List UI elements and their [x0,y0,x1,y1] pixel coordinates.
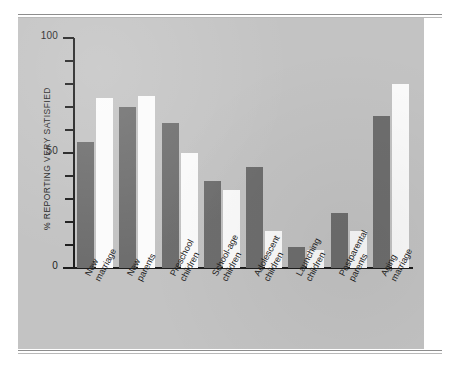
y-tick-minor [65,221,74,223]
y-tick-major: 0 [63,267,74,269]
plot-area: 050100 % REPORTING VERY SATISFIED Newmar… [18,18,424,349]
x-axis-category-labels: NewmarriageNewparentsPreschoolchildrenSc… [75,273,413,349]
y-tick-minor [65,129,74,131]
y-tick-minor [65,60,74,62]
y-tick-major: 100 [63,37,74,39]
y-tick-minor [65,198,74,200]
bottom-rule-secondary [18,353,442,354]
figure-page: 050100 % REPORTING VERY SATISFIED Newmar… [0,0,455,370]
y-tick-minor [65,83,74,85]
y-tick-minor [65,244,74,246]
bar-series-1 [77,142,94,269]
y-tick-minor [65,106,74,108]
y-tick-major: 50 [63,152,74,154]
y-axis-title: % REPORTING VERY SATISFIED [42,80,52,230]
y-tick-label: 100 [41,30,58,41]
bottom-rule [18,350,442,351]
y-tick-minor [65,175,74,177]
y-tick-label: 0 [52,260,58,271]
chart-panel: 050100 % REPORTING VERY SATISFIED Newmar… [18,18,424,349]
top-rule [18,14,442,15]
bar-series-1 [162,123,179,268]
